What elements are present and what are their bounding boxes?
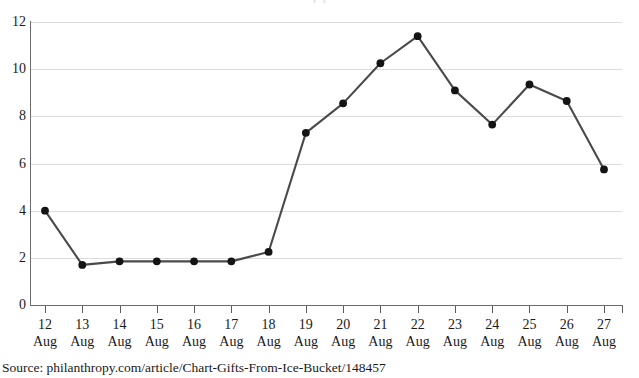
series-polyline (45, 36, 604, 265)
data-point-marker: 14 Aug: 1.85 (116, 257, 124, 265)
source-note: Source: philanthropy.com/article/Chart-G… (2, 360, 386, 376)
data-point-marker: 22 Aug: 11.4 (414, 32, 422, 40)
data-point-marker: 27 Aug: 5.75 (600, 166, 608, 174)
chart-figure: ( ) 024681012 12Aug13Aug14Aug15Aug16Aug1… (0, 0, 639, 378)
data-point-marker: 26 Aug: 8.65 (563, 97, 571, 105)
data-point-marker: 17 Aug: 1.85 (227, 257, 235, 265)
data-point-marker: 23 Aug: 9.1 (451, 86, 459, 94)
data-point-marker: 13 Aug: 1.7 (78, 261, 86, 269)
data-point-marker: 25 Aug: 9.35 (526, 81, 534, 89)
data-point-marker: 12 Aug: 4 (41, 207, 49, 215)
data-point-marker: 16 Aug: 1.85 (190, 257, 198, 265)
data-point-marker: 18 Aug: 2.25 (265, 248, 273, 256)
data-point-marker: 15 Aug: 1.85 (153, 257, 161, 265)
data-point-marker: 24 Aug: 7.65 (488, 121, 496, 129)
data-series-line: 12 Aug: 413 Aug: 1.714 Aug: 1.8515 Aug: … (0, 0, 639, 378)
data-point-marker: 19 Aug: 7.3 (302, 129, 310, 137)
data-point-marker: 21 Aug: 10.25 (377, 59, 385, 67)
data-point-marker: 20 Aug: 8.55 (339, 99, 347, 107)
